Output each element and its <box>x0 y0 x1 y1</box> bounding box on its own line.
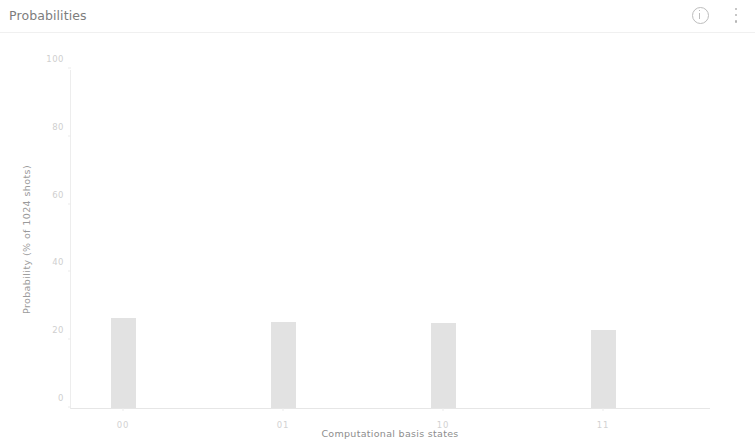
x-tick-mark <box>603 408 604 411</box>
bar-10[interactable] <box>431 323 456 408</box>
y-tick-mark <box>68 135 71 136</box>
x-tick-mark <box>283 408 284 411</box>
y-tick-mark <box>68 407 71 408</box>
x-axis-label: Computational basis states <box>70 428 710 439</box>
info-circle-icon <box>692 7 709 24</box>
x-tick-mark <box>443 408 444 411</box>
y-tick-label: 80 <box>52 122 64 132</box>
bar-00[interactable] <box>111 318 136 408</box>
overflow-menu-button[interactable] <box>725 4 747 26</box>
more-vertical-icon <box>735 8 738 23</box>
x-tick-mark <box>123 408 124 411</box>
y-tick-mark <box>68 271 71 272</box>
probabilities-chart: Probability (% of 1024 shots) 0204060801… <box>0 33 755 431</box>
plot-area: 020406080100 00011011 <box>70 70 710 409</box>
y-tick-mark <box>68 68 71 69</box>
bar-01[interactable] <box>271 322 296 408</box>
page-title: Probabilities <box>9 8 87 23</box>
header-actions <box>689 4 747 26</box>
y-tick-label: 0 <box>58 393 64 403</box>
y-tick-label: 20 <box>52 325 64 335</box>
y-tick-mark <box>68 203 71 204</box>
y-tick-mark <box>68 339 71 340</box>
y-tick-label: 40 <box>52 257 64 267</box>
y-axis-label: Probability (% of 1024 shots) <box>20 70 34 409</box>
info-button[interactable] <box>689 4 711 26</box>
y-tick-label: 100 <box>46 54 64 64</box>
bar-11[interactable] <box>591 330 616 408</box>
y-tick-label: 60 <box>52 190 64 200</box>
card-header: Probabilities <box>0 0 755 33</box>
bar-series <box>71 70 710 408</box>
